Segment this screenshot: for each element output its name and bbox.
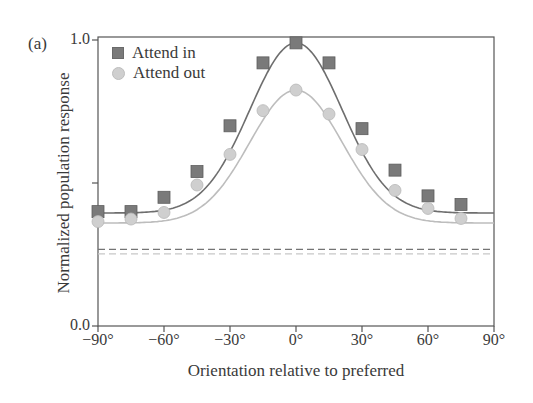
x-tick-label: −30° bbox=[214, 331, 245, 349]
legend: Attend in Attend out bbox=[112, 43, 205, 83]
x-tick-label: −90° bbox=[82, 331, 113, 349]
baseline-dashed-lines bbox=[98, 249, 494, 254]
square-marker-icon bbox=[112, 47, 124, 59]
legend-label: Attend out bbox=[133, 63, 205, 83]
circle-marker-icon bbox=[112, 67, 125, 80]
x-tick-label: 0° bbox=[289, 331, 303, 349]
x-tick-label: −60° bbox=[148, 331, 179, 349]
x-tick-label: 90° bbox=[483, 331, 505, 349]
panel-label: (a) bbox=[28, 34, 47, 54]
y-tick-label-1: 1.0 bbox=[50, 30, 90, 48]
x-tick-label: 60° bbox=[417, 331, 439, 349]
legend-item-attend-in: Attend in bbox=[112, 43, 205, 63]
x-tick-label: 30° bbox=[351, 331, 373, 349]
y-axis-label: Normalized population response bbox=[54, 73, 74, 294]
legend-item-attend-out: Attend out bbox=[112, 63, 205, 83]
legend-label: Attend in bbox=[132, 43, 196, 63]
x-axis-label: Orientation relative to preferred bbox=[188, 361, 405, 381]
chart-canvas bbox=[0, 0, 533, 403]
